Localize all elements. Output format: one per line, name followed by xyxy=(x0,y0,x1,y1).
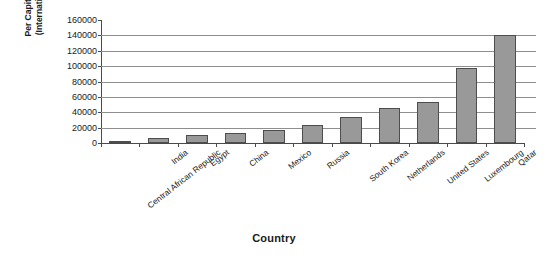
y-tick-label: 60000 xyxy=(72,92,97,101)
gridline-right-stub xyxy=(524,66,536,67)
x-tick-mark xyxy=(293,143,294,147)
bar-slot xyxy=(216,20,254,143)
x-category-label: China xyxy=(247,148,270,169)
x-tick-mark xyxy=(332,143,333,147)
y-axis-title-line-1: Per Capita Current GDP 2015 xyxy=(23,0,34,36)
x-tick-mark xyxy=(409,143,410,147)
bar-slot xyxy=(409,20,447,143)
y-tick-label: 80000 xyxy=(72,77,97,86)
plot-area: 0200004000060000800001000001200001400001… xyxy=(101,20,524,143)
bar-chart-figure: Per Capita Current GDP 2015 (Internation… xyxy=(0,0,548,262)
bar xyxy=(186,135,208,143)
y-axis-title: Per Capita Current GDP 2015 (Internation… xyxy=(14,0,54,48)
x-tick-mark xyxy=(255,143,256,147)
x-tick-mark xyxy=(486,143,487,147)
x-tick-mark xyxy=(216,143,217,147)
gridline-right-stub xyxy=(524,97,536,98)
x-tick-mark xyxy=(178,143,179,147)
bar-slot xyxy=(332,20,370,143)
y-tick-label: 120000 xyxy=(67,46,97,55)
bar xyxy=(225,133,247,143)
bar xyxy=(302,125,324,143)
bar-slot xyxy=(255,20,293,143)
bar xyxy=(494,35,516,143)
x-tick-mark xyxy=(370,143,371,147)
y-tick-label: 0 xyxy=(92,139,97,148)
y-tick-label: 100000 xyxy=(67,62,97,71)
bar xyxy=(263,130,285,143)
y-axis-title-line-2: (International dollars at ppp) xyxy=(34,0,45,35)
x-axis-category-labels: Central African RepublicIndiaEgyptChinaM… xyxy=(101,148,524,218)
bar-slot xyxy=(447,20,485,143)
x-tick-mark xyxy=(447,143,448,147)
gridline-right-stub xyxy=(524,35,536,36)
x-tick-mark xyxy=(524,143,525,147)
gridline-right-stub xyxy=(524,51,536,52)
x-category-label: United States xyxy=(446,148,491,186)
gridline-right-stub xyxy=(524,82,536,83)
x-category-label: South Korea xyxy=(368,148,410,184)
bar-slot xyxy=(178,20,216,143)
gridline-right-stub xyxy=(524,128,536,129)
bar xyxy=(417,102,439,144)
x-axis-title: Country xyxy=(0,232,548,244)
bar xyxy=(379,108,401,143)
x-tick-mark xyxy=(101,143,102,147)
bar xyxy=(340,117,362,143)
bar-series xyxy=(101,20,524,143)
bar-slot xyxy=(370,20,408,143)
x-category-label: India xyxy=(170,148,190,166)
x-category-label: Mexico xyxy=(287,148,313,171)
x-category-label: Russia xyxy=(325,148,351,171)
y-tick-label: 40000 xyxy=(72,108,97,117)
y-tick-label: 140000 xyxy=(67,31,97,40)
bar-slot xyxy=(486,20,524,143)
x-tick-mark xyxy=(139,143,140,147)
bar-slot xyxy=(139,20,177,143)
gridline-right-stub xyxy=(524,112,536,113)
bar xyxy=(456,68,478,143)
bar-slot xyxy=(101,20,139,143)
y-axis-tick-labels: 0200004000060000800001000001200001400001… xyxy=(57,20,97,143)
bar-slot xyxy=(293,20,331,143)
y-tick-label: 20000 xyxy=(72,123,97,132)
x-category-label: Netherlands xyxy=(406,148,447,183)
y-tick-label: 160000 xyxy=(67,16,97,25)
